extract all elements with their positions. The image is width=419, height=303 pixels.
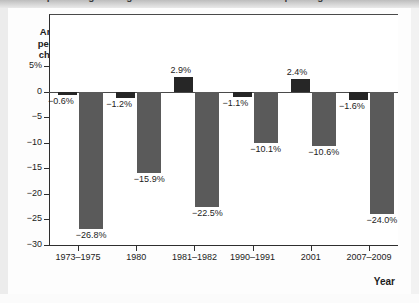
x-tick-mark [194, 246, 195, 251]
bar-investment-spending[interactable] [370, 92, 394, 215]
y-tick-label: −30 [12, 239, 42, 249]
y-tick-mark [44, 168, 49, 169]
bar-investment-spending[interactable] [79, 92, 103, 229]
y-tick-mark [44, 143, 49, 144]
figure-bottom-margin [0, 294, 419, 303]
x-tick-mark [311, 246, 312, 251]
x-category-label: 1973–1975 [48, 252, 108, 262]
y-tick-label: −5 [12, 111, 42, 121]
x-axis-title: Year [374, 276, 395, 287]
bar-investment-spending[interactable] [254, 92, 278, 144]
bar-value-label-investment: −10.1% [244, 144, 288, 154]
bar-value-label-consumer: 2.4% [287, 67, 308, 77]
y-tick-mark [44, 219, 49, 220]
bar-consumer-spending[interactable] [233, 92, 252, 98]
bar-consumer-spending[interactable] [58, 92, 77, 95]
bar-consumer-spending[interactable] [116, 92, 135, 98]
bar-investment-spending[interactable] [137, 92, 161, 173]
x-tick-mark [369, 246, 370, 251]
x-category-label: 1990–1991 [223, 252, 283, 262]
y-tick-label: −25 [12, 213, 42, 223]
bar-value-label-investment: −10.6% [302, 147, 346, 157]
figure-right-margin [411, 8, 419, 294]
bar-value-label-investment: −22.5% [185, 208, 229, 218]
bar-value-label-investment: −24.0% [360, 215, 404, 225]
x-category-label: 1981–1982 [164, 252, 224, 262]
y-tick-mark [44, 66, 49, 67]
y-tick-label: −20 [12, 188, 42, 198]
bar-value-label-investment: −26.8% [69, 230, 113, 240]
y-tick-mark [44, 194, 49, 195]
bar-value-label-investment: −15.9% [127, 174, 171, 184]
y-tick-label: −10 [12, 137, 42, 147]
x-category-label: 2007–2009 [339, 252, 399, 262]
y-tick-label: 0 [12, 86, 42, 96]
figure-left-margin [0, 8, 8, 294]
bar-value-label-consumer: −0.6% [48, 96, 74, 106]
bar-consumer-spending[interactable] [174, 77, 193, 92]
y-tick-label: −15 [12, 162, 42, 172]
bar-value-label-consumer: −1.1% [223, 98, 249, 108]
bar-value-label-consumer: −1.2% [106, 99, 132, 109]
bar-investment-spending[interactable] [195, 92, 219, 207]
x-category-label: 2001 [281, 252, 341, 262]
bar-investment-spending[interactable] [312, 92, 336, 146]
x-category-label: 1980 [106, 252, 166, 262]
x-tick-mark [253, 246, 254, 251]
clipped-title-strip: Annual percentage change in consumer and… [0, 0, 419, 8]
y-tick-label: 5% [12, 60, 42, 70]
y-tick-mark [44, 117, 49, 118]
clipped-title-text: Annual percentage change in consumer and… [10, 0, 323, 2]
x-tick-mark [136, 246, 137, 251]
bar-consumer-spending[interactable] [291, 79, 310, 91]
x-tick-mark [78, 246, 79, 251]
bar-value-label-consumer: −1.6% [339, 101, 365, 111]
bar-value-label-consumer: 2.9% [170, 65, 191, 75]
y-tick-mark [44, 245, 49, 246]
chart-page: Annual percentage change in consumer and… [0, 0, 419, 303]
bar-consumer-spending[interactable] [349, 92, 368, 100]
